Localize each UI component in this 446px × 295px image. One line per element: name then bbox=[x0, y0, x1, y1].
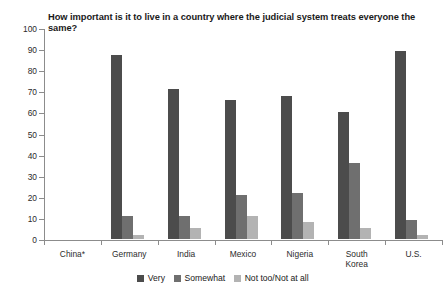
y-axis-tick-label: 80 bbox=[28, 66, 37, 76]
y-axis-tick-mark bbox=[39, 113, 44, 114]
legend-label: Somewhat bbox=[185, 273, 226, 283]
y-axis-tick-mark bbox=[39, 50, 44, 51]
y-axis-tick-mark bbox=[39, 92, 44, 93]
y-axis-tick-mark bbox=[39, 29, 44, 30]
legend-label: Very bbox=[148, 273, 165, 283]
y-axis-tick-label: 90 bbox=[28, 45, 37, 55]
bar-group bbox=[111, 28, 144, 239]
bar bbox=[225, 100, 236, 239]
legend-item[interactable]: Very bbox=[137, 273, 165, 283]
y-axis-tick-label: 20 bbox=[28, 193, 37, 203]
bar-group bbox=[395, 28, 428, 239]
x-axis-tick-mark bbox=[442, 240, 443, 245]
legend-label: Not too/Not at all bbox=[245, 273, 309, 283]
y-axis-tick-mark bbox=[39, 198, 44, 199]
bar-group bbox=[168, 28, 201, 239]
y-axis-tick-label: 60 bbox=[28, 108, 37, 118]
y-axis-tick-label: 100 bbox=[23, 24, 37, 34]
legend-swatch-icon bbox=[234, 275, 241, 282]
x-axis-tick-mark bbox=[215, 240, 216, 245]
bar bbox=[349, 163, 360, 239]
bar-group bbox=[225, 28, 258, 239]
x-axis-tick-mark bbox=[271, 240, 272, 245]
x-axis-tick-mark bbox=[44, 240, 45, 245]
x-axis-category-label: U.S. bbox=[385, 249, 442, 259]
x-axis-category-label: Mexico bbox=[215, 249, 272, 259]
x-axis-category-label: China* bbox=[44, 249, 101, 259]
y-axis-tick-mark bbox=[39, 219, 44, 220]
y-axis-tick-mark bbox=[39, 177, 44, 178]
bar bbox=[338, 112, 349, 239]
x-axis-tick-mark bbox=[385, 240, 386, 245]
x-axis-category-label: Nigeria bbox=[271, 249, 328, 259]
bar bbox=[417, 235, 428, 239]
y-axis-tick-label: 40 bbox=[28, 151, 37, 161]
y-axis-tick-mark bbox=[39, 156, 44, 157]
bar bbox=[360, 228, 371, 239]
bar bbox=[247, 216, 258, 239]
y-axis-tick-label: 70 bbox=[28, 87, 37, 97]
x-axis-line bbox=[44, 240, 442, 241]
x-axis-category-label: India bbox=[158, 249, 215, 259]
bar bbox=[236, 195, 247, 239]
bar bbox=[122, 216, 133, 239]
x-axis-tick-mark bbox=[101, 240, 102, 245]
bar-chart: How important is it to live in a country… bbox=[0, 0, 446, 295]
bar-group bbox=[281, 28, 314, 239]
plot-area: 0102030405060708090100 bbox=[44, 29, 442, 240]
y-axis-tick-label: 10 bbox=[28, 214, 37, 224]
bar-group bbox=[338, 28, 371, 239]
y-axis-tick-label: 30 bbox=[28, 172, 37, 182]
bar-group bbox=[54, 28, 87, 239]
bar bbox=[395, 51, 406, 239]
bar bbox=[292, 193, 303, 239]
legend-swatch-icon bbox=[137, 275, 144, 282]
bar bbox=[406, 220, 417, 239]
x-axis-tick-mark bbox=[158, 240, 159, 245]
y-axis-tick-label: 50 bbox=[28, 130, 37, 140]
legend-item[interactable]: Somewhat bbox=[174, 273, 225, 283]
legend-item[interactable]: Not too/Not at all bbox=[234, 273, 309, 283]
x-axis-category-label: Germany bbox=[101, 249, 158, 259]
bar bbox=[111, 55, 122, 239]
bar bbox=[168, 89, 179, 239]
bar bbox=[179, 216, 190, 239]
chart-legend: VerySomewhatNot too/Not at all bbox=[0, 273, 446, 283]
y-axis-tick-mark bbox=[39, 71, 44, 72]
y-axis-tick-mark bbox=[39, 135, 44, 136]
y-axis-line bbox=[44, 29, 45, 241]
legend-swatch-icon bbox=[174, 275, 181, 282]
bar bbox=[281, 96, 292, 239]
bar bbox=[303, 222, 314, 239]
bar bbox=[190, 228, 201, 239]
x-axis-tick-mark bbox=[328, 240, 329, 245]
bar bbox=[133, 235, 144, 239]
x-axis-category-label: South Korea bbox=[328, 249, 385, 269]
y-axis-tick-label: 0 bbox=[32, 235, 37, 245]
